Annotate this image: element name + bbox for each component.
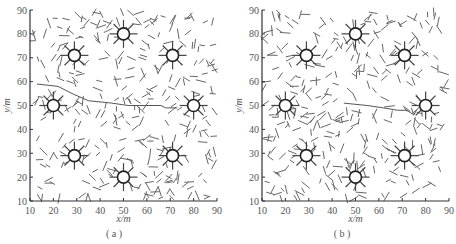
y-tick-label: 90 [17,5,27,16]
x-tick-label: 20 [48,205,58,216]
chart-a: 102030405060708090102030405060708090x/my… [0,0,228,244]
well-marker [342,20,370,48]
x-tick-label: 10 [25,205,35,216]
x-tick-label: 30 [304,205,314,216]
well-marker [60,142,88,170]
flow-path [344,103,421,115]
well-marker [159,41,187,69]
well-marker [271,92,299,120]
x-tick-label: 40 [95,205,105,216]
well-marker [412,92,440,120]
y-tick-label: 70 [249,52,259,63]
y-tick-label: 50 [249,100,259,111]
y-axis-label: y/m [233,98,244,113]
y-tick-label: 30 [17,148,27,159]
y-tick-label: 40 [17,124,27,135]
well-marker [292,142,320,170]
panel-b: 102030405060708090102030405060708090x/my… [228,0,456,244]
x-tick-label: 30 [72,205,82,216]
x-tick-label: 10 [257,205,267,216]
y-tick-label: 50 [17,100,27,111]
y-tick-label: 30 [249,148,259,159]
well-marker [292,41,320,69]
well-marker [180,92,208,120]
y-tick-label: 70 [17,52,27,63]
x-tick-label: 80 [421,205,431,216]
x-tick-label: 90 [212,205,222,216]
x-axis-label: x/m [115,213,130,224]
caption-b: ( b ) [228,228,456,239]
well-marker [110,163,138,191]
x-axis-label: x/m [347,213,362,224]
x-tick-label: 40 [327,205,337,216]
well-marker [60,41,88,69]
panel-a: 102030405060708090102030405060708090x/my… [0,0,228,244]
y-tick-label: 80 [249,28,259,39]
well-marker [342,163,370,191]
x-tick-label: 20 [280,205,290,216]
y-tick-label: 60 [249,76,259,87]
y-axis-label: y/m [1,98,12,113]
x-tick-label: 90 [444,205,454,216]
chart-b: 102030405060708090102030405060708090x/my… [228,0,456,244]
x-tick-label: 70 [397,205,407,216]
x-tick-label: 60 [142,205,152,216]
well-marker [110,20,138,48]
well-marker [391,41,419,69]
y-tick-label: 90 [249,5,259,16]
y-tick-label: 80 [17,28,27,39]
well-marker [391,142,419,170]
y-tick-label: 40 [249,124,259,135]
x-tick-label: 60 [374,205,384,216]
well-marker [159,142,187,170]
y-tick-label: 60 [17,76,27,87]
x-tick-label: 80 [189,205,199,216]
y-tick-label: 20 [17,172,27,183]
caption-a: ( a ) [0,228,228,239]
x-tick-label: 70 [165,205,175,216]
well-marker [39,92,67,120]
y-tick-label: 20 [249,172,259,183]
